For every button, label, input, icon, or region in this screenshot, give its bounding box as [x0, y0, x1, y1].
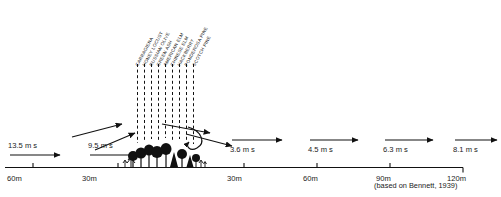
wind-speed-label-3-6: 3.6 m s: [230, 145, 255, 154]
axis-label-30m-downwind: 30m: [227, 174, 242, 183]
wind-speed-label-8-1: 8.1 m s: [453, 145, 478, 154]
source-attribution: (based on Bennett, 1939): [374, 181, 457, 190]
wind-speed-label-9-5: 9.5 m s: [88, 141, 113, 150]
lee-eddy-arrow: [188, 127, 202, 149]
axis-label-60m-downwind: 60m: [303, 174, 318, 183]
wind-speed-label-13-5: 13.5 m s: [8, 141, 37, 150]
axis-label-30m-upwind: 30m: [82, 174, 97, 183]
diagram-vectors: [0, 0, 501, 197]
shelterbelt-wind-diagram: CARRAGIENA HONEY LOCUST RUSSIAN OLIVE GR…: [0, 0, 501, 197]
distance-axis: [5, 163, 463, 173]
axis-label-60m-upwind: 60m: [7, 174, 22, 183]
wind-speed-label-6-3: 6.3 m s: [383, 145, 408, 154]
wind-speed-label-4-5: 4.5 m s: [308, 145, 333, 154]
shelterbelt-trees: [123, 143, 207, 167]
species-leader-lines: [138, 64, 194, 144]
